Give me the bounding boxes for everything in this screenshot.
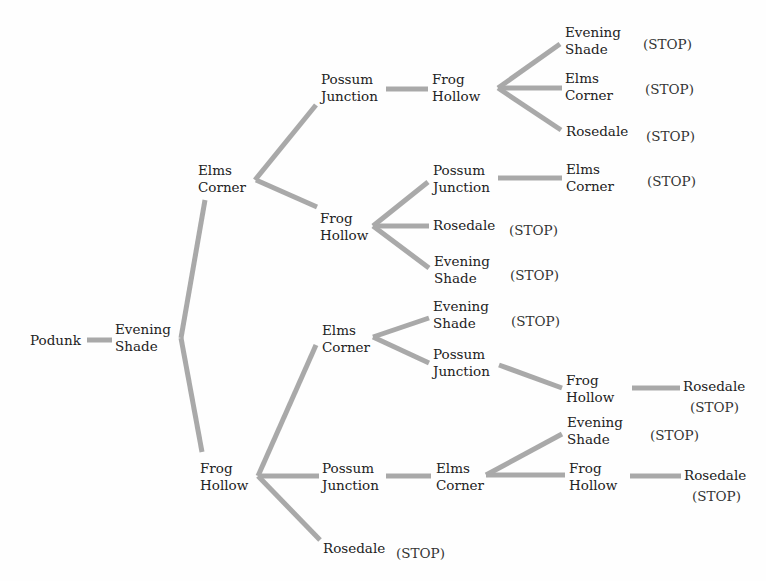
node-rosedale: Rosedale	[566, 123, 628, 140]
node-rosedale: Rosedale	[433, 217, 495, 234]
node-elms-corner: ElmsCorner	[566, 161, 614, 195]
node-label-line: Podunk	[30, 332, 81, 349]
node-elms-corner: ElmsCorner	[565, 70, 613, 104]
node-label-line: Shade	[433, 315, 489, 332]
stop-label: (STOP)	[647, 173, 696, 190]
node-rosedale: Rosedale	[683, 378, 745, 395]
node-label-line: Rosedale	[683, 378, 745, 395]
node-label-line: Elms	[565, 70, 613, 87]
node-frog-hollow: FrogHollow	[566, 372, 614, 406]
node-label-line: Evening	[433, 298, 489, 315]
node-label-line: Corner	[436, 477, 484, 494]
node-label-line: Shade	[434, 270, 490, 287]
node-label-line: Corner	[566, 178, 614, 195]
node-possum-junction: PossumJunction	[321, 71, 378, 105]
edge-n14-n15	[373, 318, 429, 337]
stop-label: (STOP)	[646, 128, 695, 145]
edge-n2-n8	[256, 180, 317, 207]
node-label-line: Elms	[436, 460, 484, 477]
edge-n13-n24	[258, 476, 320, 540]
node-label-line: Hollow	[200, 477, 248, 494]
edge-n16-n17	[499, 365, 562, 388]
node-elms-corner: ElmsCorner	[198, 162, 246, 196]
node-label-line: Possum	[433, 162, 490, 179]
node-label-line: Hollow	[566, 389, 614, 406]
node-label-line: Hollow	[320, 227, 368, 244]
node-label-line: Shade	[115, 338, 171, 355]
edge-n20-n21	[486, 434, 562, 475]
node-label-line: Junction	[321, 88, 378, 105]
node-elms-corner: ElmsCorner	[322, 322, 370, 356]
node-podunk: Podunk	[30, 332, 81, 349]
node-label-line: Possum	[322, 460, 379, 477]
edge-n14-n16	[373, 337, 429, 363]
node-frog-hollow: FrogHollow	[569, 460, 617, 494]
node-label-line: Evening	[565, 24, 621, 41]
node-label-line: Elms	[566, 161, 614, 178]
node-frog-hollow: FrogHollow	[432, 71, 480, 105]
node-evening-shade: EveningShade	[434, 253, 490, 287]
node-label-line: Evening	[434, 253, 490, 270]
node-possum-junction: PossumJunction	[433, 162, 490, 196]
stop-label: (STOP)	[645, 81, 694, 98]
edge-n8-n9	[373, 182, 428, 226]
stop-label: (STOP)	[650, 427, 699, 444]
node-label-line: Hollow	[432, 88, 480, 105]
node-label-line: Frog	[432, 71, 480, 88]
edge-n2-n3	[255, 105, 316, 180]
node-frog-hollow: FrogHollow	[200, 460, 248, 494]
node-label-line: Rosedale	[323, 540, 385, 557]
node-label-line: Rosedale	[566, 123, 628, 140]
node-label-line: Junction	[433, 179, 490, 196]
node-evening-shade: EveningShade	[565, 24, 621, 58]
node-label-line: Rosedale	[684, 467, 746, 484]
node-label-line: Elms	[198, 162, 246, 179]
node-possum-junction: PossumJunction	[433, 346, 490, 380]
node-rosedale: Rosedale	[684, 467, 746, 484]
node-label-line: Shade	[565, 41, 621, 58]
stop-label: (STOP)	[510, 267, 559, 284]
stop-label: (STOP)	[690, 399, 739, 416]
node-label-line: Junction	[433, 363, 490, 380]
stop-label: (STOP)	[511, 313, 560, 330]
node-label-line: Frog	[320, 210, 368, 227]
edge-n1-n13	[181, 338, 202, 452]
node-label-line: Hollow	[569, 477, 617, 494]
node-label-line: Rosedale	[433, 217, 495, 234]
node-label-line: Frog	[569, 460, 617, 477]
node-label-line: Possum	[433, 346, 490, 363]
node-elms-corner: ElmsCorner	[436, 460, 484, 494]
stop-label: (STOP)	[643, 36, 692, 53]
node-label-line: Possum	[321, 71, 378, 88]
stop-label: (STOP)	[396, 545, 445, 562]
node-evening-shade: EveningShade	[567, 414, 623, 448]
stop-label: (STOP)	[692, 488, 741, 505]
node-label-line: Corner	[198, 179, 246, 196]
node-label-line: Corner	[322, 339, 370, 356]
node-label-line: Evening	[115, 321, 171, 338]
node-label-line: Frog	[200, 460, 248, 477]
node-label-line: Evening	[567, 414, 623, 431]
stop-label: (STOP)	[509, 222, 558, 239]
edge-n1-n2	[181, 200, 205, 338]
tree-diagram: PodunkEveningShadeElmsCornerPossumJuncti…	[0, 0, 766, 581]
node-label-line: Corner	[565, 87, 613, 104]
node-label-line: Elms	[322, 322, 370, 339]
node-frog-hollow: FrogHollow	[320, 210, 368, 244]
edge-n4-n5	[498, 44, 560, 88]
node-label-line: Shade	[567, 431, 623, 448]
node-label-line: Junction	[322, 477, 379, 494]
node-possum-junction: PossumJunction	[322, 460, 379, 494]
node-evening-shade: EveningShade	[115, 321, 171, 355]
node-rosedale: Rosedale	[323, 540, 385, 557]
node-label-line: Frog	[566, 372, 614, 389]
node-evening-shade: EveningShade	[433, 298, 489, 332]
edge-n13-n14	[258, 345, 316, 476]
edge-n8-n12	[373, 226, 429, 268]
edge-n4-n7	[498, 88, 561, 130]
